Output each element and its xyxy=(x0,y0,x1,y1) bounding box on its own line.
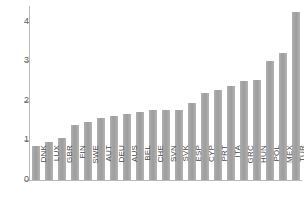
bar-chart: 01234 DNKLUXGBRFINSWEAUTDEUAUSBELCHESVNS… xyxy=(0,0,304,220)
x-tick-label: TUR xyxy=(299,145,304,183)
x-tick-label: DEU xyxy=(118,145,126,183)
x-tick-label: MEX xyxy=(286,145,294,183)
x-tick-label: GRC xyxy=(247,145,255,183)
x-tick-label: POL xyxy=(273,145,281,183)
x-axis-category-labels: DNKLUXGBRFINSWEAUTDEUAUSBELCHESVNSVKESPC… xyxy=(30,181,302,220)
x-tick-label: FIN xyxy=(79,145,87,183)
x-tick-label: SVN xyxy=(170,145,178,183)
x-tick-label: SWE xyxy=(92,145,100,183)
x-tick-label: CHE xyxy=(157,145,165,183)
x-tick-label: ITA xyxy=(234,145,242,183)
x-tick-label: DNK xyxy=(40,145,48,183)
y-tick-label: 0 xyxy=(7,175,29,184)
x-tick-label: PRT xyxy=(221,145,229,183)
x-tick-label: GBR xyxy=(66,145,74,183)
x-tick-label: CYP xyxy=(208,145,216,183)
x-tick-label: LUX xyxy=(53,145,61,183)
x-tick-label: HUN xyxy=(260,145,268,183)
y-tick-label: 3 xyxy=(7,56,29,65)
x-tick-label: AUT xyxy=(105,145,113,183)
y-tick-label: 2 xyxy=(7,96,29,105)
x-tick-label: ESP xyxy=(195,145,203,183)
y-tick-label: 4 xyxy=(7,17,29,26)
x-tick-label: SVK xyxy=(182,145,190,183)
x-tick-label: BEL xyxy=(144,145,152,183)
y-tick-label: 1 xyxy=(7,135,29,144)
x-tick-label: AUS xyxy=(131,145,139,183)
